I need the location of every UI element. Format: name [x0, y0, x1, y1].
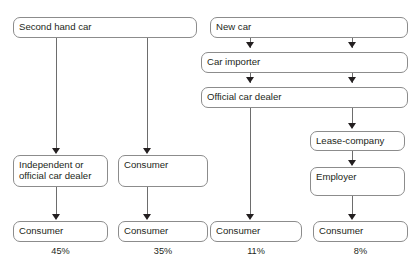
arrowhead-to-employer: [348, 160, 356, 166]
arrowhead-new-car-to-car-importer-left: [246, 42, 254, 48]
connector-independent-dealer-to-consumer-1: [56, 187, 57, 215]
node-consumer-1: Consumer: [13, 221, 108, 242]
connector-official-dealer-to-consumer-3: [250, 108, 251, 215]
arrowhead-to-consumer-1: [52, 214, 60, 220]
arrowhead-car-importer-to-official-dealer-right: [348, 77, 356, 83]
node-consumer-3: Consumer: [210, 221, 302, 242]
node-car-importer: Car importer: [201, 52, 408, 73]
connector-employer-to-consumer-4: [352, 196, 353, 215]
arrowhead-to-consumer-2: [143, 214, 151, 220]
percentage-channel-3: 11%: [210, 246, 302, 256]
arrowhead-new-car-to-car-importer-right: [348, 42, 356, 48]
node-consumer-4: Consumer: [313, 221, 408, 242]
percentage-channel-1: 45%: [13, 246, 108, 256]
arrowhead-to-consumer-3: [246, 214, 254, 220]
percentage-channel-2: 35%: [118, 246, 208, 256]
node-new-car: New car: [210, 17, 408, 38]
percentage-channel-4: 8%: [313, 246, 408, 256]
node-independent-or-official-car-dealer: Independent or official car dealer: [13, 155, 108, 187]
node-lease-company: Lease-company: [310, 131, 405, 151]
connector-consumer-intermediate-to-consumer-2: [147, 187, 148, 215]
node-consumer-intermediate: Consumer: [118, 155, 208, 187]
node-consumer-2: Consumer: [118, 221, 208, 242]
arrowhead-to-independent-dealer: [52, 148, 60, 154]
arrowhead-to-consumer-4: [348, 214, 356, 220]
arrowhead-to-lease-company: [348, 123, 356, 129]
flowchart-diagram: Second hand car Independent or official …: [0, 0, 417, 268]
arrowhead-to-consumer-intermediate: [143, 148, 151, 154]
node-official-car-dealer: Official car dealer: [201, 87, 408, 108]
node-employer: Employer: [310, 167, 405, 196]
arrowhead-car-importer-to-official-dealer-left: [246, 77, 254, 83]
connector-second-hand-to-consumer-intermediate: [147, 38, 148, 149]
node-second-hand-car: Second hand car: [13, 17, 197, 38]
connector-second-hand-to-independent-dealer: [56, 38, 57, 149]
